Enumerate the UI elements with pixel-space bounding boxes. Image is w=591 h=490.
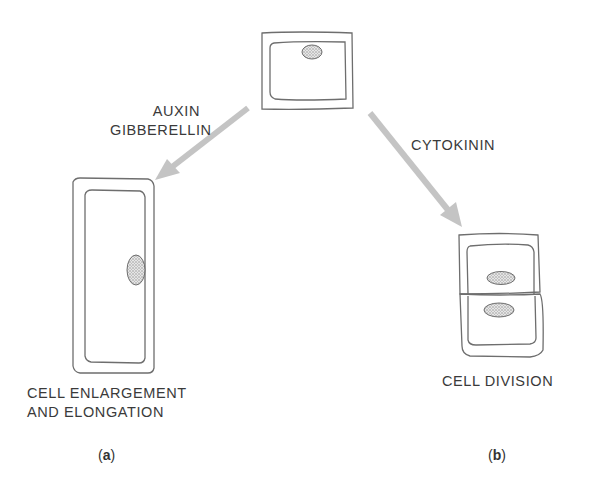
outcome-label-left: CELL ENLARGEMENT AND ELONGATION (27, 384, 187, 422)
auxin-label: AUXIN (110, 102, 200, 121)
nucleus-upper (487, 272, 515, 285)
elongated-cell (73, 178, 154, 373)
gibberellin-label: GIBBERELLIN (110, 121, 200, 140)
cytokinin-label: CYTOKININ (411, 136, 495, 155)
hormone-label-left: AUXIN GIBBERELLIN (110, 102, 200, 140)
elongation-label: AND ELONGATION (27, 403, 187, 422)
nucleus (302, 45, 322, 59)
divided-cells (459, 234, 543, 358)
cell-division-label: CELL DIVISION (442, 372, 553, 391)
original-cell (262, 32, 353, 109)
cell-enlargement-label: CELL ENLARGEMENT (27, 384, 187, 403)
nucleus (127, 255, 145, 285)
nucleus-lower (484, 303, 514, 317)
arrow-to-division (370, 113, 462, 227)
panel-label-b: (b) (488, 447, 506, 463)
panel-label-a: (a) (98, 447, 115, 463)
